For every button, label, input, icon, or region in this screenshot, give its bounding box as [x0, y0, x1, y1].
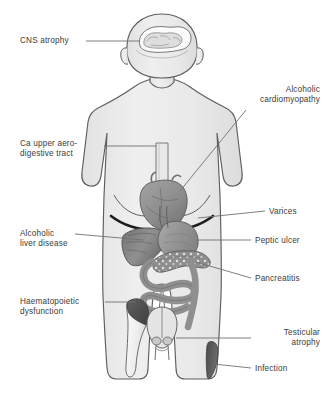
label-varices: Varices: [269, 207, 324, 217]
label-haematopoietic-dysfunction: Haematopoietic dysfunction: [20, 297, 120, 317]
label-alcoholic-liver-disease: Alcoholic liver disease: [20, 229, 110, 249]
label-peptic-ulcer: Peptic ulcer: [255, 236, 325, 246]
label-infection: Infection: [255, 364, 315, 374]
label-cns-atrophy: CNS atrophy: [20, 36, 110, 46]
label-pancreatitis: Pancreatitis: [255, 274, 325, 284]
label-ca-upper-aerodigestive: Ca upper aero- digestive tract: [20, 139, 115, 159]
leader-infection: [214, 364, 251, 368]
testes-organ: [147, 307, 177, 351]
label-testicular-atrophy: Testicular atrophy: [252, 328, 320, 348]
label-alcoholic-cardiomyopathy: Alcoholic cardiomyopathy: [225, 85, 320, 105]
